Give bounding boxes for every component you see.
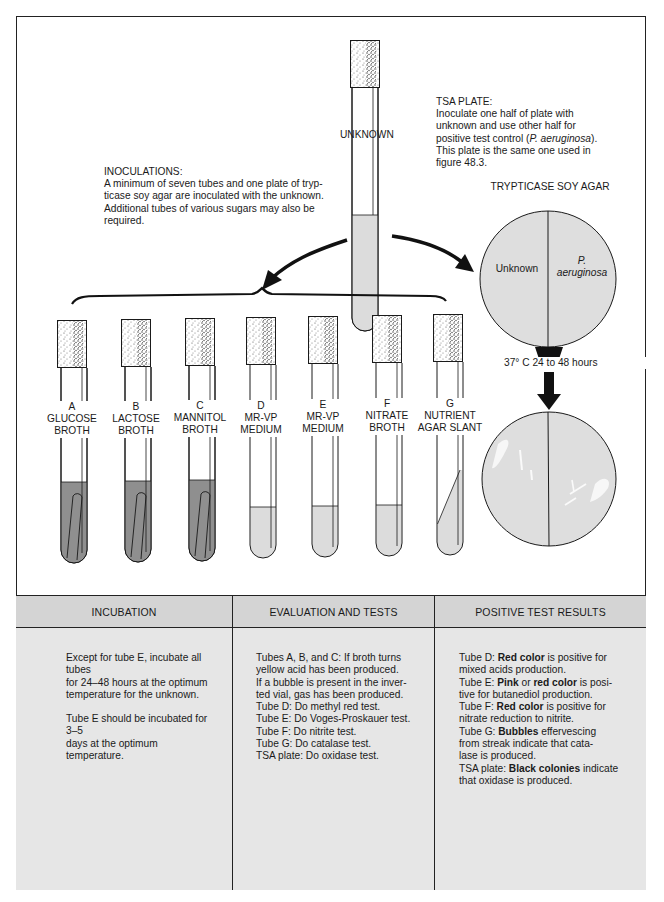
plate-right-label-line: P. [550,255,614,267]
text-line: nitrate reduction to nitrite. [459,713,632,725]
inoculations-line: A minimum of seven tubes and one plate o… [104,178,334,190]
positive-indicator: red color [533,677,577,688]
tube-label-a: A GLUCOSE BROTH [40,401,104,438]
inoculations-line: Additional tubes of various sugars may a… [104,203,334,215]
positive-indicator: Red color [498,652,545,663]
tsa-plate-note: TSA PLATE: Inoculate one half of plate w… [436,96,646,169]
text-line: Except for tube E, incubate all tubes [66,652,218,677]
tsa-plate-line: figure 48.3. [436,157,646,169]
inoculations-line: required. [104,215,334,227]
tube-medium-line: NITRATE [356,410,418,422]
text-line: yellow acid has been produced. [256,664,420,676]
positive-indicator: Red color [497,701,544,712]
tube-letter: D [232,400,290,412]
evaluation-column: EVALUATION AND TESTS Tubes A, B, and C: … [232,596,434,890]
tube-medium-line: NUTRIENT [416,410,484,422]
tube-b [122,320,152,563]
inoculations-heading: INOCULATIONS: [104,166,334,178]
tube-c [186,319,216,562]
text-line: Tube F: Do nitrite test. [256,726,420,738]
arrow-to-tubes-icon [262,240,347,290]
tube-letter: F [356,398,418,410]
diagram-artwork [0,0,664,595]
text-line: days at the optimum temperature. [66,738,218,763]
tube-g [434,315,464,556]
tube-medium-line: BROTH [40,425,104,437]
text-line: mixed acids production. [459,664,632,676]
tube-letter: E [294,399,352,411]
text-line: from streak indicate that cata- [459,738,632,750]
text-line: TSA plate: Black colonies indicate [459,763,632,775]
organism-name: P. aeruginosa [529,133,591,144]
tube-label-f: F NITRATE BROTH [356,398,418,435]
text-line: temperature for the unknown. [66,689,218,701]
text-line: that oxidase is produced. [459,775,632,787]
text-line: Tube F: Red color is positive for [459,701,632,713]
column-text: Except for tube E, incubate all tubes fo… [66,652,218,762]
inoculations-note: INOCULATIONS: A minimum of seven tubes a… [104,166,334,227]
tube-medium-line: BROTH [356,422,418,434]
tsa-plate-line: This plate is the same one used in [436,145,646,157]
tube-letter: C [168,400,232,412]
positive-indicator: Bubbles [498,726,538,737]
plate-right-label: P. aeruginosa [550,255,614,279]
tube-medium-line: MEDIUM [232,424,290,436]
column-body: Tubes A, B, and C: If broth turns yellow… [233,628,434,890]
text-line: for 24–48 hours at the optimum [66,677,218,689]
tube-medium-line: AGAR SLANT [416,422,484,434]
unknown-tube-label: UNKNOWN [340,129,392,141]
tsa-plate-line: Inoculate one half of plate with [436,108,646,120]
column-text: Tubes A, B, and C: If broth turns yellow… [256,652,420,763]
text-line: tive for butanediol production. [459,689,632,701]
tsa-plate-line: positive test control (P. aeruginosa). [436,133,646,145]
tsa-plate-incubated [482,412,616,546]
tube-letter: A [40,401,104,413]
text-line: Tubes A, B, and C: If broth turns [256,652,420,664]
tube-medium-line: GLUCOSE [40,413,104,425]
text-line: Tube G: Do catalase test. [256,738,420,750]
tube-label-d: D MR-VP MEDIUM [232,400,290,437]
tube-label-b: B LACTOSE BROTH [104,401,168,438]
arrow-to-plate-icon [392,236,474,272]
column-body: Tube D: Red color is positive formixed a… [435,628,646,890]
tube-label-g: G NUTRIENT AGAR SLANT [416,398,484,435]
tube-d [247,318,277,559]
column-header: POSITIVE TEST RESULTS [435,596,646,628]
tube-f [373,316,403,557]
tube-medium-line: MR-VP [232,412,290,424]
tube-label-c: C MANNITOL BROTH [168,400,232,437]
positive-results-column: POSITIVE TEST RESULTS Tube D: Red color … [434,596,646,890]
text-line: Tube E should be incubated for 3–5 [66,713,218,738]
column-body: Except for tube E, incubate all tubes fo… [16,628,232,890]
tube-label-e: E MR-VP MEDIUM [294,399,352,436]
text-line: Tube E: Do Voges-Proskauer test. [256,713,420,725]
brace-icon [72,288,446,304]
text-line: If a bubble is present in the inver- [256,677,420,689]
tube-e [309,317,339,558]
positive-indicator: Pink [497,677,519,688]
tube-medium-line: MANNITOL [168,412,232,424]
text-line: Tube E: Pink or red color is posi- [459,677,632,689]
text-line: TSA plate: Do oxidase test. [256,750,420,762]
column-header: EVALUATION AND TESTS [233,596,434,628]
tube-medium-line: LACTOSE [104,413,168,425]
plate-title: TRYPTICASE SOY AGAR [470,181,630,193]
plate-left-label: Unknown [488,263,546,275]
text-line: Tube D: Red color is positive for [459,652,632,664]
incubation-arrow-label: 37° C 24 to 48 hours [502,357,664,369]
tube-medium-line: MEDIUM [294,423,352,435]
text-line: lase is produced. [459,750,632,762]
text-line: ted vial, gas has been produced. [256,689,420,701]
tube-medium-line: BROTH [104,425,168,437]
inoculations-line: ticase soy agar are inoculated with the … [104,190,334,202]
procedure-table: INCUBATION Except for tube E, incubate a… [16,595,646,890]
text-line: Tube G: Bubbles effervescing [459,726,632,738]
incubation-column: INCUBATION Except for tube E, incubate a… [16,596,232,890]
tsa-plate-line: unknown and use other half for [436,120,646,132]
tube-medium-line: MR-VP [294,411,352,423]
tube-medium-line: BROTH [168,424,232,436]
unknown-tube [351,41,380,332]
tube-letter: G [416,398,484,410]
tube-letter: B [104,401,168,413]
text-line: Tube D: Do methyl red test. [256,701,420,713]
